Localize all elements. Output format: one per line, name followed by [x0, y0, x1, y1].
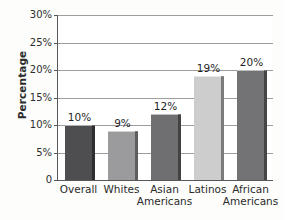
bar-value-label: 9% — [98, 117, 148, 129]
y-axis-tick-label: 15% — [6, 92, 52, 103]
bar-shadow-edge — [221, 76, 224, 181]
bar-shadow-edge — [92, 125, 95, 180]
x-axis-tick-label-line: Americans — [217, 195, 285, 207]
bar — [194, 76, 224, 181]
bar — [237, 70, 267, 180]
y-axis-tick-label: 5% — [6, 147, 52, 158]
y-axis-tick — [54, 98, 58, 99]
bar-face — [151, 114, 181, 180]
y-axis-tick — [54, 153, 58, 154]
bar-highlight — [194, 76, 224, 77]
bar-value-label: 20% — [227, 56, 277, 68]
y-axis-tick — [54, 43, 58, 44]
bar-highlight — [237, 70, 267, 71]
gridline — [58, 43, 273, 44]
y-axis-tick — [54, 70, 58, 71]
bar-face — [108, 131, 138, 181]
bar-highlight — [151, 114, 181, 115]
bar-shadow-edge — [178, 114, 181, 180]
bar-shadow-edge — [264, 70, 267, 180]
gridline — [58, 180, 273, 181]
x-axis-tick-label-line: African — [217, 183, 285, 195]
y-axis-tick — [54, 180, 58, 181]
gridline — [58, 15, 273, 16]
x-axis-tick-label: AfricanAmericans — [217, 183, 285, 207]
bar-face — [237, 70, 267, 180]
x-axis-tick-label-line: Americans — [131, 195, 199, 207]
bar-value-label: 12% — [141, 100, 191, 112]
bar — [151, 114, 181, 180]
plot-area: 10%9%12%19%20% — [57, 15, 272, 180]
bar-face — [65, 125, 95, 180]
y-axis-tick — [54, 15, 58, 16]
bar-chart-figure: Percentage 30%25%20%15%10%5%0 10%9%12%19… — [0, 0, 284, 220]
bar — [108, 131, 138, 181]
y-axis-tick-label: 10% — [6, 119, 52, 130]
bar-shadow-edge — [135, 131, 138, 181]
bar-highlight — [108, 131, 138, 132]
y-axis-tick-label: 25% — [6, 37, 52, 48]
y-axis-tick — [54, 125, 58, 126]
bar — [65, 125, 95, 180]
bar-face — [194, 76, 224, 181]
bar-highlight — [65, 125, 95, 126]
y-axis-tick-label: 20% — [6, 64, 52, 75]
y-axis-tick-label: 30% — [6, 9, 52, 20]
